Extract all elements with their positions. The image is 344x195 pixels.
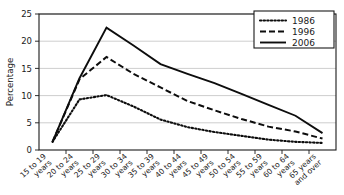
y-axis-tick-label: 5 — [27, 118, 32, 128]
chart-canvas: 051015202515 to 19years20 to 24years25 t… — [0, 0, 344, 195]
y-axis-tick-label: 0 — [27, 145, 32, 155]
y-axis-title: Percentage — [5, 58, 15, 106]
series-line-1986 — [53, 95, 323, 143]
x-axis-tick-label: 50 to 54years — [207, 152, 242, 186]
x-axis-tick-label: 20 to 24years — [45, 152, 80, 186]
y-axis-tick-label: 10 — [21, 91, 32, 101]
x-axis-tick-label: 45 to 49years — [180, 152, 215, 186]
x-axis-tick-label: 30 to 34years — [99, 152, 134, 186]
series-line-1996 — [53, 57, 323, 142]
y-axis-tick-label: 15 — [21, 64, 32, 74]
x-axis-tick-label: 35 to 39years — [126, 152, 161, 186]
legend-label-1996: 1996 — [292, 27, 315, 37]
x-axis-tick-label: 55 to 59years — [234, 152, 269, 186]
legend-label-2006: 2006 — [292, 38, 315, 48]
x-axis-tick-label: 25 to 29years — [72, 152, 107, 186]
y-axis-tick-label: 20 — [21, 36, 32, 46]
y-axis-tick-label: 25 — [21, 9, 32, 19]
line-chart: 051015202515 to 19years20 to 24years25 t… — [0, 0, 344, 195]
legend-label-1986: 1986 — [292, 16, 315, 26]
x-axis-tick-label: 40 to 44years — [153, 152, 188, 186]
x-axis-tick-label: 65 yearsand over — [287, 151, 324, 187]
x-axis-tick-label: 60 to 64years — [261, 152, 296, 186]
x-axis-tick-label: 15 to 19years — [18, 152, 53, 186]
